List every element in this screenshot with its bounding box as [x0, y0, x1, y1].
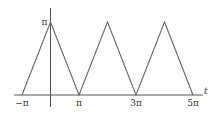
series-layer — [22, 22, 193, 95]
series-line-0 — [22, 22, 193, 95]
x-tick-label: −π — [15, 98, 29, 108]
x-tick-labels: −ππ3π5π — [15, 98, 199, 108]
x-tick-label: π — [76, 98, 82, 108]
x-axis-label: t — [204, 86, 208, 96]
x-tick-label: 3π — [130, 98, 142, 108]
y-tick-labels: π — [42, 17, 48, 27]
y-tick-label: π — [42, 17, 48, 27]
triangle-wave-chart: −ππ3π5π π t — [0, 0, 211, 115]
x-tick-label: 5π — [187, 98, 199, 108]
